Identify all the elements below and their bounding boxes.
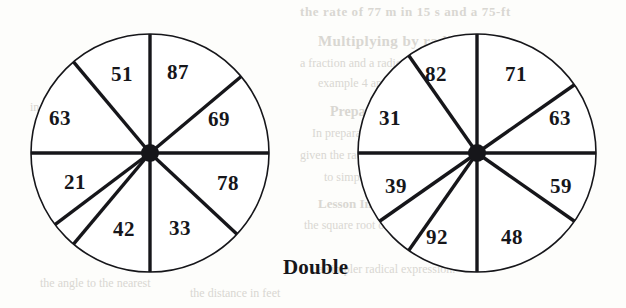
spinner-sector-number: 69 [208,107,230,132]
spinner-sector-number: 63 [549,106,571,131]
spinner-sector-number: 31 [379,106,401,131]
spinner-right[interactable] [327,0,626,308]
spinner-sector-number: 51 [111,62,133,87]
spinner-sector-number: 21 [64,170,86,195]
spinner-left[interactable] [0,0,313,308]
spinner-sector-number: 33 [169,216,191,241]
spinner-sector-number: 42 [113,217,135,242]
spinner-center-hub [468,144,486,162]
worksheet-page: the rate of 77 m in 15 s and a 75-ft Mul… [0,0,626,308]
spinner-sector-number: 39 [385,174,407,199]
spinner-right-graphic [327,0,626,308]
spinner-sector-number: 92 [426,225,448,250]
spinner-sector-number: 59 [550,174,572,199]
spinner-center-hub [141,144,159,162]
spinner-sector-number: 71 [505,62,527,87]
spinner-sector-number: 87 [167,60,189,85]
spinner-left-graphic [0,0,313,308]
spinner-sector-number: 48 [501,225,523,250]
spinner-sector-number: 82 [425,62,447,87]
caption-double: Double [283,255,348,280]
spinner-sector-number: 78 [217,171,239,196]
spinner-sector-number: 63 [49,106,71,131]
